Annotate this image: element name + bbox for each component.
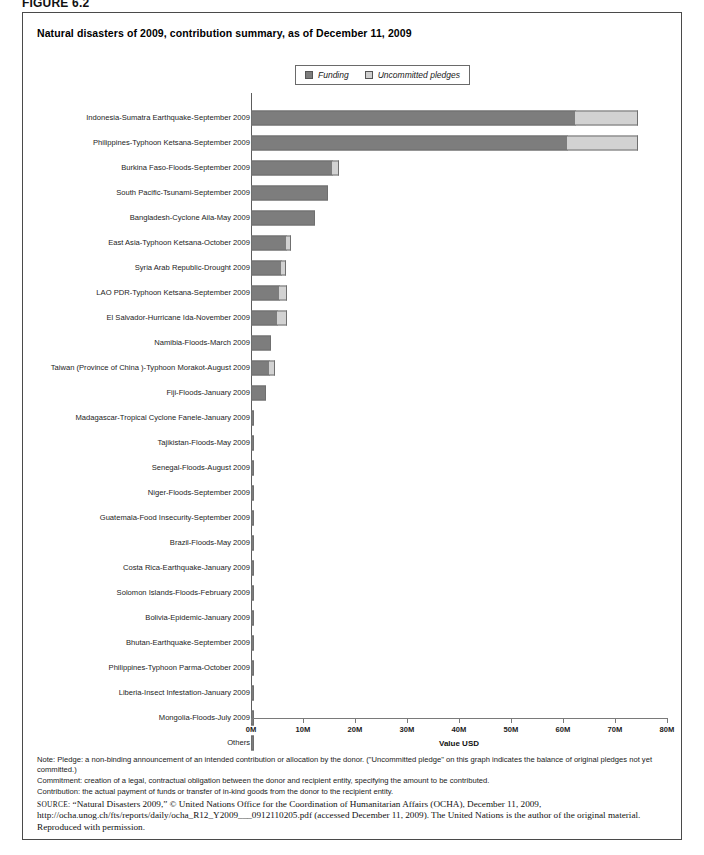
- stacked-bar: [251, 335, 271, 350]
- bar-row: Bolivia-Epidemic-January 2009: [23, 605, 683, 630]
- stacked-bar: [251, 485, 254, 500]
- bar-row: Guatemala-Food Insecurity-September 2009: [23, 505, 683, 530]
- note-contribution: Contribution: the actual payment of fund…: [37, 787, 669, 797]
- bar-row: Philippines-Typhoon Ketsana-September 20…: [23, 130, 683, 155]
- legend-label-uncommitted-pledges: Uncommitted pledges: [378, 70, 460, 80]
- stacked-bar: [251, 635, 254, 650]
- stacked-bar: [251, 185, 328, 200]
- category-label: Liberia-Insect Infestation-January 2009: [22, 687, 250, 698]
- stacked-bar: [251, 435, 254, 450]
- bar-segment-funding: [251, 460, 254, 475]
- stacked-bar: [251, 360, 275, 375]
- bar-row: Syria Arab Republic-Drought 2009: [23, 255, 683, 280]
- bar-row: South Pacific-Tsunami-September 2009: [23, 180, 683, 205]
- bar-segment-uncommitted-pledges: [279, 285, 287, 300]
- bar-segment-funding: [251, 185, 328, 200]
- stacked-bar: [251, 385, 266, 400]
- bar-segment-funding: [251, 235, 287, 250]
- chart-source: SOURCE: “Natural Disasters 2009,” © Unit…: [37, 799, 669, 833]
- legend-item-uncommitted-pledges: Uncommitted pledges: [365, 70, 460, 80]
- bar-row: Philippines-Typhoon Parma-October 2009: [23, 655, 683, 680]
- bar-row: Liberia-Insect Infestation-January 2009: [23, 680, 683, 705]
- bar-segment-uncommitted-pledges: [286, 235, 291, 250]
- x-tick: [667, 718, 668, 723]
- bar-segment-funding: [251, 285, 280, 300]
- category-label: Syria Arab Republic-Drought 2009: [22, 262, 250, 273]
- figure-label: FIGURE 6.2: [22, 0, 89, 10]
- bar-row: Costa Rica-Earthquake-January 2009: [23, 555, 683, 580]
- category-label: Bolivia-Epidemic-January 2009: [22, 612, 250, 623]
- bar-row: El Salvador-Hurricane Ida-November 2009: [23, 305, 683, 330]
- bar-row: Brazil-Floods-May 2009: [23, 530, 683, 555]
- x-tick-label: 40M: [452, 725, 467, 734]
- legend-label-funding: Funding: [318, 70, 349, 80]
- stacked-bar: [251, 535, 254, 550]
- bar-row: Senegal-Floods-August 2009: [23, 455, 683, 480]
- bar-row: Fiji-Floods-January 2009: [23, 380, 683, 405]
- bar-segment-funding: [251, 510, 254, 525]
- bar-segment-funding: [251, 535, 254, 550]
- stacked-bar: [251, 660, 254, 675]
- bar-row: East Asia-Typhoon Ketsana-October 2009: [23, 230, 683, 255]
- bar-row: Tajikistan-Floods-May 2009: [23, 430, 683, 455]
- bar-segment-funding: [251, 160, 333, 175]
- x-tick-label: 70M: [608, 725, 623, 734]
- category-label: Niger-Floods-September 2009: [22, 487, 250, 498]
- bar-segment-funding: [251, 210, 315, 225]
- x-tick-label: 10M: [296, 725, 311, 734]
- x-tick-label: 60M: [556, 725, 571, 734]
- stacked-bar: [251, 260, 286, 275]
- category-label: East Asia-Typhoon Ketsana-October 2009: [22, 237, 250, 248]
- category-label: Costa Rica-Earthquake-January 2009: [22, 562, 250, 573]
- bar-row: Taiwan (Province of China )-Typhoon Mora…: [23, 355, 683, 380]
- category-label: Brazil-Floods-May 2009: [22, 537, 250, 548]
- bar-segment-funding: [251, 610, 254, 625]
- category-label: Mongolia-Floods-July 2009: [22, 712, 250, 723]
- category-label: Namibia-Floods-March 2009: [22, 337, 250, 348]
- stacked-bar: [251, 510, 254, 525]
- bar-segment-funding: [251, 560, 254, 575]
- stacked-bar: [251, 285, 287, 300]
- category-label: El Salvador-Hurricane Ida-November 2009: [22, 312, 250, 323]
- bar-row: Madagascar-Tropical Cyclone Fanele-Janua…: [23, 405, 683, 430]
- chart-frame: Natural disasters of 2009, contribution …: [22, 12, 682, 840]
- bar-row: Burkina Faso-Floods-September 2009: [23, 155, 683, 180]
- stacked-bar: [251, 310, 287, 325]
- x-tick: [563, 718, 564, 723]
- bar-segment-funding: [251, 385, 266, 400]
- bar-segment-funding: [251, 110, 576, 125]
- note-commitment: Commitment: creation of a legal, contrac…: [37, 776, 669, 786]
- bar-segment-funding: [251, 410, 254, 425]
- bar-row: Namibia-Floods-March 2009: [23, 330, 683, 355]
- x-tick: [407, 718, 408, 723]
- stacked-bar: [251, 585, 254, 600]
- stacked-bar: [251, 160, 339, 175]
- bar-segment-uncommitted-pledges: [269, 360, 275, 375]
- bar-segment-funding: [251, 435, 254, 450]
- stacked-bar: [251, 460, 254, 475]
- category-label: Indonesia-Sumatra Earthquake-September 2…: [22, 112, 250, 123]
- bar-segment-uncommitted-pledges: [332, 160, 339, 175]
- note-pledge: Note: Pledge: a non-binding announcement…: [37, 755, 669, 775]
- x-tick: [511, 718, 512, 723]
- stacked-bar: [251, 210, 315, 225]
- stacked-bar: [251, 560, 254, 575]
- bar-rows: Indonesia-Sumatra Earthquake-September 2…: [23, 105, 683, 755]
- figure-page: FIGURE 6.2 Natural disasters of 2009, co…: [0, 0, 704, 855]
- bar-segment-funding: [251, 135, 568, 150]
- x-tick: [459, 718, 460, 723]
- bar-segment-funding: [251, 485, 254, 500]
- category-label: Tajikistan-Floods-May 2009: [22, 437, 250, 448]
- legend-item-funding: Funding: [305, 70, 349, 80]
- category-label: Bangladesh-Cyclone Aila-May 2009: [22, 212, 250, 223]
- chart-legend: Funding Uncommitted pledges: [295, 65, 470, 85]
- category-label: Solomon Islands-Floods-February 2009: [22, 587, 250, 598]
- stacked-bar: [251, 410, 254, 425]
- category-label: South Pacific-Tsunami-September 2009: [22, 187, 250, 198]
- stacked-bar: [251, 110, 638, 125]
- bar-segment-uncommitted-pledges: [575, 110, 638, 125]
- x-tick-label: 50M: [504, 725, 519, 734]
- bar-row: Solomon Islands-Floods-February 2009: [23, 580, 683, 605]
- bar-segment-funding: [251, 685, 254, 700]
- bar-segment-funding: [251, 585, 254, 600]
